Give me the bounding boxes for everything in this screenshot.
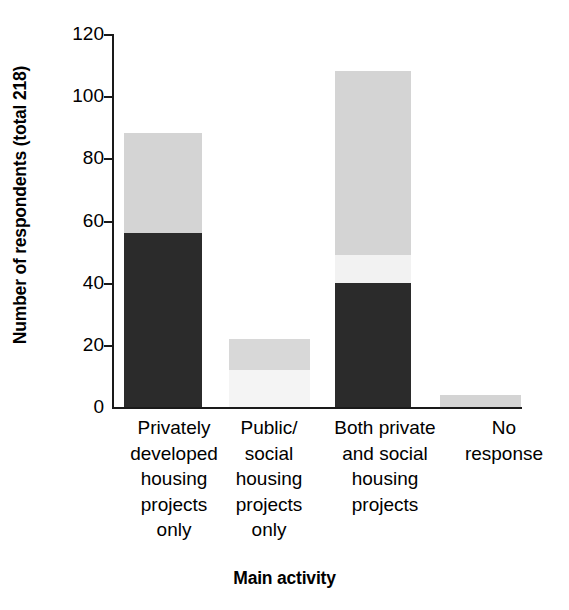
bar-chart: Number of respondents (total 218) 020406… xyxy=(0,0,569,610)
y-tick-label: 80 xyxy=(44,147,104,169)
bar-3-very-light-segment xyxy=(335,255,411,283)
x-axis-title: Main activity xyxy=(0,568,569,589)
bar-3-mid-gray-segment xyxy=(335,71,411,254)
bar-4 xyxy=(440,395,521,407)
y-tick-label: 100 xyxy=(44,85,104,107)
y-tick-mark xyxy=(104,96,114,98)
y-tick-label: 60 xyxy=(44,210,104,232)
x-label-3: Both private and social housing projects xyxy=(321,415,449,517)
y-tick-label: 0 xyxy=(44,396,104,418)
bar-1-dark-segment xyxy=(124,233,202,407)
bar-3-dark-segment xyxy=(335,283,411,407)
bar-4-mid-gray-segment xyxy=(440,395,521,407)
plot-area: 020406080100120 xyxy=(112,34,522,409)
bar-1-mid-gray-segment xyxy=(124,133,202,232)
bar-2-mid-gray-segment xyxy=(229,339,310,370)
bar-2 xyxy=(229,339,310,407)
x-label-4: No response xyxy=(449,415,559,466)
bar-3 xyxy=(335,71,411,407)
y-tick-mark xyxy=(104,221,114,223)
y-tick-mark xyxy=(104,34,114,36)
x-label-2: Public/ social housing projects only xyxy=(215,415,323,543)
bar-1 xyxy=(124,133,202,407)
y-tick-label: 120 xyxy=(44,23,104,45)
y-axis-title: Number of respondents (total 218) xyxy=(0,0,40,410)
y-tick-label: 40 xyxy=(44,272,104,294)
x-axis-line xyxy=(112,407,522,409)
y-tick-mark xyxy=(104,345,114,347)
y-tick-mark xyxy=(104,158,114,160)
y-tick-label: 20 xyxy=(44,334,104,356)
y-tick-mark xyxy=(104,283,114,285)
bar-2-very-light-segment xyxy=(229,370,310,407)
x-axis-tick-labels: Privately developed housing projects onl… xyxy=(112,415,552,560)
